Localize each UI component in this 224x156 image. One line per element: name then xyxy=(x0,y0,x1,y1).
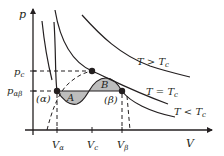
pv-diagram: p V pc pαβ Vα Vc Vβ A B (α) (β) T > Tc T… xyxy=(0,0,224,156)
point-alpha xyxy=(54,88,60,94)
y-axis-label: p xyxy=(19,8,26,21)
x-axis-label: V xyxy=(186,137,195,150)
pab-label: pαβ xyxy=(7,85,22,98)
vc-label: Vc xyxy=(87,139,98,152)
point-beta xyxy=(119,88,125,94)
label-t-below-tc: T < Tc xyxy=(174,106,206,119)
va-label: Vα xyxy=(52,139,64,152)
region-b-label: B xyxy=(100,79,108,90)
region-a-label: A xyxy=(66,92,74,103)
alpha-label: (α) xyxy=(36,93,51,104)
critical-point xyxy=(89,68,95,74)
vb-dashed-drop-2 xyxy=(127,96,130,130)
pc-label: pc xyxy=(14,66,24,79)
beta-label: (β) xyxy=(104,94,118,105)
vb-label: Vβ xyxy=(117,139,128,152)
isotherm-supercritical xyxy=(82,15,190,77)
